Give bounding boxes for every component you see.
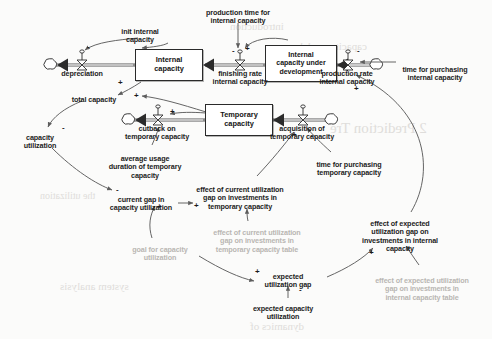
link-temporary-capacity-to-cutback (170, 112, 206, 114)
variable-expected-capacity-utilization[interactable]: expected capacity utilization (234, 305, 332, 322)
polarity-sign: + (134, 92, 139, 100)
polarity-sign: - (62, 124, 65, 132)
polarity-sign: + (170, 108, 175, 116)
cloud-acquisition (325, 114, 338, 125)
polarity-sign: - (116, 186, 119, 194)
variable-effect-of-current-utilization-gap-on-investments-in-temporary-capacity[interactable]: effect of current utilization gap on inv… (185, 186, 295, 211)
polarity-sign: - (310, 132, 313, 140)
valve-cutback (153, 105, 163, 125)
variable-goal-for-capacity-utilization[interactable]: goal for capacity utilization (118, 246, 202, 263)
polarity-sign: + (245, 45, 250, 53)
variable-production-time-for-internal-capacity[interactable]: production time for internal capacity (186, 9, 290, 26)
link-goal-to-expected-gap (199, 256, 254, 281)
cloud-cutback (122, 114, 135, 125)
stock-internal-capacity[interactable]: Internal capacity (135, 49, 203, 81)
flow-label-production-rate-internal-capacity[interactable]: production rate internal capacity (303, 70, 391, 87)
valve-acquisition (298, 105, 308, 125)
variable-time-for-purchasing-internal-capacity[interactable]: time for purchasing internal capacity (383, 66, 487, 83)
variable-effect-of-expected-utilization-gap-on-investments-in-internal-capacity[interactable]: effect of expected utilization gap on in… (345, 220, 455, 254)
polarity-sign: + (118, 79, 123, 87)
variable-expected-utilization-gap[interactable]: expected utilization gap (249, 273, 327, 290)
variable-current-gap-in-capacity-utilization[interactable]: current gap in capacity utilization (95, 196, 187, 213)
polarity-sign: + (354, 85, 359, 93)
variable-average-usage-duration-of-temporary-capacity[interactable]: average usage duration of temporary capa… (94, 155, 196, 180)
diagram-canvas: 2 Prediction Treintroductioncapacity mod… (0, 0, 492, 339)
polarity-sign: - (299, 286, 302, 294)
polarity-sign: - (232, 47, 235, 55)
variable-total-capacity[interactable]: total capacity (56, 96, 132, 104)
variable-effect-of-expected-utilization-gap-on-investments-in-internal-capacity-table[interactable]: effect of expected utilization gap on in… (365, 277, 479, 302)
valve-finishing-rate (235, 50, 245, 70)
variable-time-for-purchasing-temporary-capacity[interactable]: time for purchasing temporary capacity (297, 161, 401, 178)
link-effect-expected-to-production-rate (356, 75, 423, 212)
flow-label-finishing-rate-internal-capacity[interactable]: finishing rate internal capacity (196, 70, 284, 87)
polarity-sign: - (357, 47, 360, 55)
variable-capacity-utilization[interactable]: capacity utilization (8, 134, 72, 151)
polarity-sign: - (87, 43, 90, 51)
cloud-production-rate (370, 59, 383, 70)
cloud-depreciation (44, 59, 57, 70)
polarity-sign: + (157, 203, 162, 211)
polarity-sign: + (194, 202, 199, 210)
link-total-capacity-to-capacity-utilization (48, 101, 82, 127)
polarity-sign: + (369, 249, 374, 257)
valve-depreciation (77, 50, 87, 70)
variable-init-internal-capacity[interactable]: init internal capacity (104, 28, 176, 45)
flow-label-cutback-on-temporary-capacity[interactable]: cutback on temporary capacity (105, 125, 209, 142)
variable-effect-of-current-utilization-gap-on-investments-in-temporary-capacity-table[interactable]: effect of current utilization gap on inv… (203, 229, 311, 254)
flow-label-acquisition-of-temporary-capacity[interactable]: acquisition of temporary capacity (250, 125, 354, 142)
polarity-sign: + (255, 268, 260, 276)
polarity-sign: + (292, 131, 297, 139)
flow-label-depreciation[interactable]: depreciation (44, 70, 120, 78)
